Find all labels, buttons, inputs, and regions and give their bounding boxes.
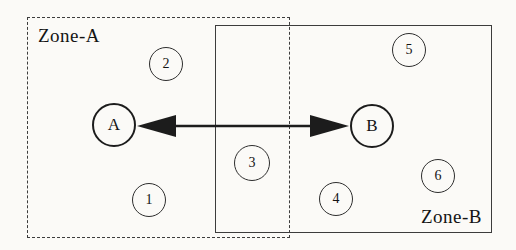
node-5: 5 [392, 33, 426, 67]
node-1-label: 1 [146, 192, 153, 208]
node-6: 6 [421, 159, 455, 193]
node-4: 4 [319, 182, 353, 216]
node-b-label: B [366, 116, 377, 136]
zone-a-label: Zone-A [38, 25, 100, 47]
node-3: 3 [234, 145, 270, 181]
node-a-label: A [108, 115, 120, 135]
node-4-label: 4 [333, 191, 340, 207]
node-a: A [92, 103, 136, 147]
node-2: 2 [149, 47, 183, 81]
node-2-label: 2 [163, 56, 170, 72]
node-5-label: 5 [406, 42, 413, 58]
node-1: 1 [132, 183, 166, 217]
node-3-label: 3 [249, 155, 256, 171]
node-b: B [350, 104, 394, 148]
node-6-label: 6 [435, 168, 442, 184]
diagram-canvas: Zone-A Zone-B A B 1 2 3 4 5 6 [0, 0, 516, 250]
zone-b-label: Zone-B [421, 206, 482, 228]
